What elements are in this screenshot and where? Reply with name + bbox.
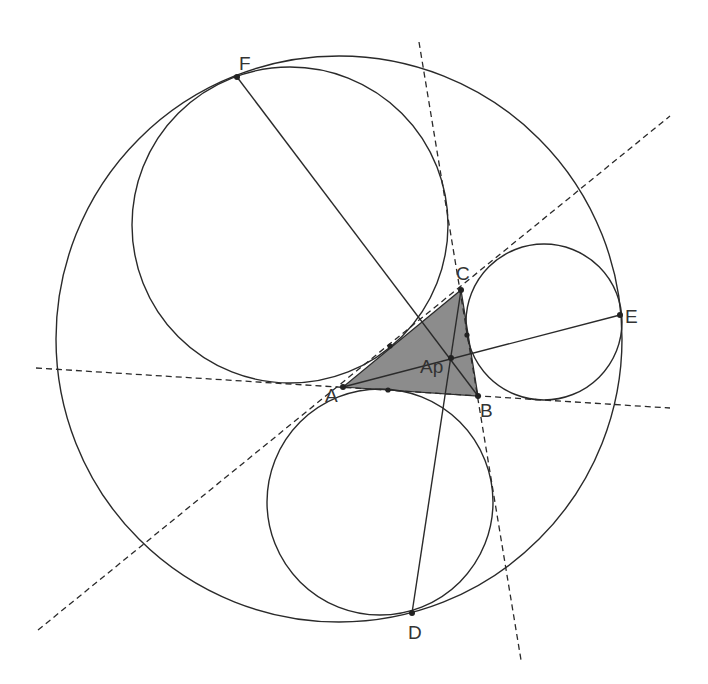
tangency-point-3 — [464, 332, 469, 337]
label-d: D — [408, 622, 422, 643]
label-f: F — [239, 53, 251, 74]
point-a — [340, 384, 346, 390]
circle-through-E — [466, 244, 622, 400]
point-c — [458, 287, 464, 293]
segment-F-B — [237, 77, 478, 396]
label-b: B — [480, 400, 493, 421]
label-ap: Ap — [420, 356, 443, 377]
circle-through-D — [267, 389, 493, 615]
tangency-point-1 — [387, 343, 392, 348]
line-CA-extended — [38, 116, 670, 630]
point-b — [475, 393, 481, 399]
tangency-point-2 — [385, 387, 390, 392]
outer-circle — [56, 56, 622, 622]
point-e — [617, 312, 623, 318]
point-ap — [448, 355, 454, 361]
point-d — [409, 610, 415, 616]
label-a: A — [325, 385, 338, 406]
label-c: C — [456, 263, 470, 284]
circle-through-F — [132, 67, 448, 383]
geometry-diagram: F C E Ap A B D — [0, 0, 708, 684]
point-f — [234, 74, 240, 80]
label-e: E — [625, 306, 638, 327]
